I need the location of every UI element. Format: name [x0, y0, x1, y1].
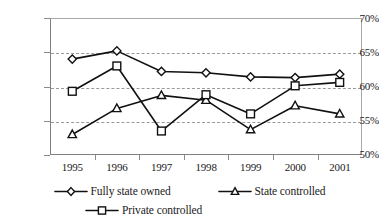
legend-label-fully-state-owned: Fully state owned: [91, 186, 171, 198]
data-point-diamond-1997: [157, 67, 165, 75]
legend-row-2: Private controlled: [0, 201, 379, 220]
legend-label-state-controlled: State controlled: [255, 186, 326, 198]
chart-legend: Fully state owned State controlled Priva…: [0, 182, 379, 220]
data-point-diamond-2001: [336, 70, 344, 78]
data-point-diamond-2000: [291, 73, 299, 81]
data-point-square-2001: [336, 78, 344, 86]
data-point-diamond-1996: [113, 47, 121, 55]
legend-entry-private-controlled[interactable]: Private controlled: [85, 204, 202, 217]
data-point-diamond-1998: [202, 69, 210, 77]
legend-label-private-controlled: Private controlled: [122, 205, 202, 217]
data-point-diamond-1995: [68, 55, 76, 63]
data-point-diamond-1999: [246, 73, 254, 81]
data-point-square-1998: [202, 91, 210, 99]
legend-entry-state-controlled[interactable]: State controlled: [218, 185, 326, 198]
legend-row-1: Fully state owned State controlled: [0, 182, 379, 201]
data-point-triangle-2000: [291, 101, 299, 109]
legend-entry-fully-state-owned[interactable]: Fully state owned: [54, 185, 171, 198]
line-chart: 70% 65% 60% 55% 50% 1995 1996 1997 1998 …: [0, 0, 379, 223]
data-point-triangle-1997: [157, 91, 165, 99]
data-point-square-1995: [68, 87, 76, 95]
data-point-square-2000: [291, 82, 299, 90]
data-point-square-1997: [158, 127, 166, 135]
series-markers: [68, 47, 344, 138]
data-point-square-1999: [247, 110, 255, 118]
square-marker-icon: [85, 204, 119, 217]
data-point-triangle-1995: [68, 130, 76, 138]
diamond-marker-icon: [54, 185, 88, 198]
triangle-marker-icon: [218, 185, 252, 198]
data-point-triangle-1999: [246, 125, 254, 133]
data-point-square-1996: [113, 62, 121, 70]
